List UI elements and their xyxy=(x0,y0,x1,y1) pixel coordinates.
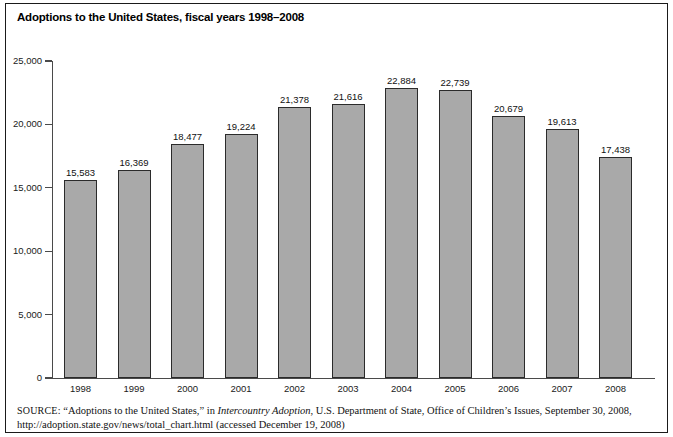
bar[interactable] xyxy=(332,104,365,378)
x-axis-tick-label: 2008 xyxy=(589,383,643,394)
source-in-word: in xyxy=(207,405,215,416)
bar[interactable] xyxy=(439,90,472,378)
y-axis-tick xyxy=(45,314,52,315)
bar[interactable] xyxy=(225,134,258,378)
bar[interactable] xyxy=(118,170,151,378)
y-axis-tick xyxy=(45,60,52,61)
y-axis-tick-label: 10,000 xyxy=(0,245,42,256)
x-axis-tick-label: 1999 xyxy=(107,383,161,394)
bar-value-label: 15,583 xyxy=(54,167,108,178)
y-axis-tick-label-wrap: 25,000 xyxy=(0,55,42,65)
x-axis-tick-label: 2004 xyxy=(375,383,429,394)
y-axis-tick-label-wrap: 20,000 xyxy=(0,118,42,128)
bar-chart-plot: 05,00010,00015,00020,00025,00015,5831998… xyxy=(0,0,673,437)
bar[interactable] xyxy=(278,107,311,378)
bar-value-label: 22,739 xyxy=(428,77,482,88)
bar-value-label: 21,616 xyxy=(321,91,375,102)
y-axis-tick-label: 5,000 xyxy=(0,309,42,320)
bar[interactable] xyxy=(64,180,97,378)
x-axis-tick-label: 2003 xyxy=(321,383,375,394)
bar-value-label: 17,438 xyxy=(589,144,643,155)
y-axis-tick-label-wrap: 0 xyxy=(0,372,42,382)
y-axis-tick-label-wrap: 15,000 xyxy=(0,182,42,192)
y-axis-tick xyxy=(45,124,52,125)
bar[interactable] xyxy=(171,144,204,378)
x-axis-tick-label: 1998 xyxy=(54,383,108,394)
y-axis-tick-label: 15,000 xyxy=(0,182,42,193)
x-axis-tick-label: 2001 xyxy=(214,383,268,394)
bar-value-label: 20,679 xyxy=(482,103,536,114)
y-axis-tick xyxy=(45,251,52,252)
y-axis-tick-label-wrap: 10,000 xyxy=(0,245,42,255)
x-axis-tick-label: 2000 xyxy=(161,383,215,394)
bar-value-label: 22,884 xyxy=(375,75,429,86)
bar-value-label: 21,378 xyxy=(268,94,322,105)
y-axis-tick-label: 20,000 xyxy=(0,118,42,129)
y-axis-tick-label-wrap: 5,000 xyxy=(0,309,42,319)
x-axis-tick-label: 2006 xyxy=(482,383,536,394)
y-axis-tick-label: 0 xyxy=(0,372,42,383)
source-quoted-title: “Adoptions to the United States,” xyxy=(63,405,204,416)
y-axis-tick xyxy=(45,187,52,188)
x-axis-tick-label: 2002 xyxy=(268,383,322,394)
bar-value-label: 18,477 xyxy=(161,131,215,142)
bar-value-label: 19,224 xyxy=(214,121,268,132)
bar[interactable] xyxy=(599,157,632,378)
source-publication: Intercountry Adoption xyxy=(218,405,311,416)
x-axis-tick-label: 2005 xyxy=(428,383,482,394)
bar[interactable] xyxy=(546,129,579,378)
source-note: SOURCE: “Adoptions to the United States,… xyxy=(17,404,649,431)
y-axis-tick-label: 25,000 xyxy=(0,55,42,66)
source-label: SOURCE: xyxy=(17,405,61,416)
bar-value-label: 16,369 xyxy=(107,157,161,168)
y-axis-line xyxy=(52,61,53,379)
bar[interactable] xyxy=(385,88,418,378)
bar[interactable] xyxy=(492,116,525,378)
x-axis-line xyxy=(52,378,655,379)
x-axis-tick-label: 2007 xyxy=(535,383,589,394)
y-axis-tick xyxy=(45,377,52,378)
bar-value-label: 19,613 xyxy=(535,116,589,127)
figure-container: Adoptions to the United States, fiscal y… xyxy=(0,0,673,437)
